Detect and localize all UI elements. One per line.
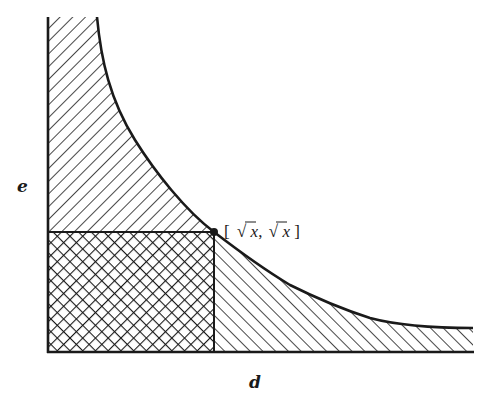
upper-left-region xyxy=(48,17,214,232)
comma: , xyxy=(258,222,262,241)
square-region xyxy=(48,232,214,352)
diagram-canvas: e d [ √ x , √ x ] xyxy=(0,0,495,406)
var-1: x xyxy=(250,222,259,241)
radical-2: √ xyxy=(269,222,279,241)
radical-1: √ xyxy=(237,222,247,241)
lower-right-region xyxy=(214,232,473,352)
x-axis-label: d xyxy=(249,372,261,392)
var-2: x xyxy=(281,222,290,241)
point-label: [ √ x , √ x ] xyxy=(224,222,300,241)
bracket-open: [ xyxy=(224,222,230,241)
intersection-point xyxy=(210,228,218,236)
bracket-close: ] xyxy=(294,222,300,241)
y-axis-label: e xyxy=(17,176,28,196)
